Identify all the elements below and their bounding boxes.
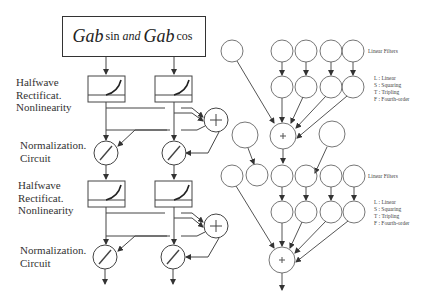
rectifier-box-cos-1 xyxy=(155,76,192,102)
normalization-circuit-label-2: Normalization. Circuit xyxy=(20,244,86,269)
sin-label: sin xyxy=(105,29,119,44)
rectifier-box-sin-2 xyxy=(88,181,125,207)
cos-label: cos xyxy=(177,29,193,44)
gabor-filter-box: Gab sin and Gab cos xyxy=(62,16,206,57)
legend-item: F : Fourth-order xyxy=(374,96,409,103)
gab-cos-label: Gab xyxy=(144,26,175,47)
halfwave-rectification-label-2: Halfwave Rectificat. Nonlinearity xyxy=(18,179,74,217)
legend-item: T : Tripling xyxy=(374,213,409,220)
linear-filters-label-2: Linear Filters xyxy=(368,173,398,180)
label-line: Circuit xyxy=(20,152,86,165)
normalization-circuit-label-1: Normalization. Circuit xyxy=(20,139,86,164)
rectifier-box-sin-1 xyxy=(88,76,125,102)
label-line: Rectificat. xyxy=(18,192,74,205)
norm-circle-sin-2 xyxy=(93,245,117,269)
legend-1: L : Linear S : Squaring T : Tripling F :… xyxy=(374,75,409,103)
label-line: Nonlinearity xyxy=(16,101,72,114)
label-line: Halfwave xyxy=(16,76,72,89)
legend-item: L : Linear xyxy=(374,199,409,206)
and-label: and xyxy=(123,29,141,44)
label-line: Nonlinearity xyxy=(18,204,74,217)
rectifier-box-cos-2 xyxy=(155,181,192,207)
legend-item: F : Fourth-order xyxy=(374,220,409,227)
halfwave-rectification-label-1: Halfwave Rectificat. Nonlinearity xyxy=(16,76,72,114)
norm-circle-cos-1 xyxy=(162,141,186,165)
label-line: Normalization. xyxy=(20,244,86,257)
norm-circle-sin-1 xyxy=(94,141,118,165)
legend-item: S : Squaring xyxy=(374,82,409,89)
legend-2: L : Linear S : Squaring T : Tripling F :… xyxy=(374,199,409,227)
label-line: Circuit xyxy=(20,257,86,270)
legend-item: L : Linear xyxy=(374,75,409,82)
legend-item: T : Tripling xyxy=(374,89,409,96)
filter-circle xyxy=(221,40,243,62)
legend-item: S : Squaring xyxy=(374,206,409,213)
label-line: Rectificat. xyxy=(16,89,72,102)
label-line: Halfwave xyxy=(18,179,74,192)
linear-filters-label-1: Linear Filters xyxy=(368,48,398,55)
gab-sin-label: Gab xyxy=(72,26,103,47)
norm-circle-cos-2 xyxy=(161,245,185,269)
label-line: Normalization. xyxy=(20,139,86,152)
